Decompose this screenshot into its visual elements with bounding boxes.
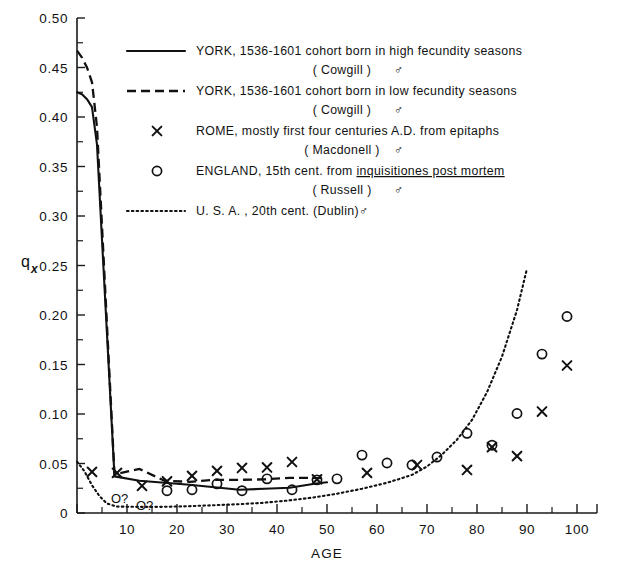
legend-entry[interactable]: YORK, 1536-1601 cohort born in high fecu… [127, 44, 522, 77]
marker-x [188, 471, 197, 480]
marker-x [563, 361, 572, 370]
legend: YORK, 1536-1601 cohort born in high fecu… [127, 44, 522, 218]
series-line-dotted [77, 268, 527, 506]
x-tick-label: 90 [519, 522, 535, 537]
y-tick-label: 0 [60, 506, 68, 521]
x-axis-tick-labels: 102030405060708090100 [119, 522, 589, 537]
marker-circle [357, 450, 366, 459]
marker-x [88, 468, 97, 477]
y-tick-label: 0.25 [39, 259, 68, 274]
chart-container: 00.050.100.150.200.250.300.350.400.450.5… [0, 0, 618, 566]
x-tick-label: 30 [219, 522, 235, 537]
uncertain-markers: O?O? [111, 491, 153, 513]
marker-circle [237, 486, 246, 495]
series-line-solid [77, 92, 327, 489]
legend-label-emphasis: inquisitiones post mortem [356, 164, 504, 178]
marker-circle-uncertain: O? [136, 498, 153, 513]
y-tick-label: 0.05 [39, 457, 68, 472]
legend-swatch-circle-marker [152, 166, 161, 175]
legend-entry[interactable]: YORK, 1536-1601 cohort born in low fecun… [127, 84, 517, 117]
legend-label-source: ( Macdonell ) [304, 143, 380, 157]
marker-x [263, 463, 272, 472]
y-tick-label: 0.15 [39, 358, 68, 373]
legend-label-primary: U. S. A. , 20th cent. (Dublin) [196, 204, 359, 218]
y-axis-title-subscript: x [30, 262, 39, 276]
data-series-lines [77, 51, 527, 507]
marker-circle [407, 460, 416, 469]
legend-label-source: ( Russell ) [312, 183, 371, 197]
y-tick-label: 0.35 [39, 160, 68, 175]
legend-label-primary: ROME, mostly first four centuries A.D. f… [196, 124, 499, 138]
marker-circle [187, 485, 196, 494]
x-tick-label: 20 [169, 522, 185, 537]
y-tick-label: 0.40 [39, 110, 68, 125]
marker-x [288, 458, 297, 467]
x-tick-label: 50 [319, 522, 335, 537]
legend-label-primary: YORK, 1536-1601 cohort born in high fecu… [196, 44, 522, 58]
legend-swatch-x-marker [153, 127, 162, 136]
marker-x [463, 466, 472, 475]
legend-label-primary: YORK, 1536-1601 cohort born in low fecun… [196, 84, 517, 98]
y-axis-tick-labels: 00.050.100.150.200.250.300.350.400.450.5… [39, 11, 68, 521]
y-tick-label: 0.50 [39, 11, 68, 26]
marker-x [363, 469, 372, 478]
marker-circle [512, 409, 521, 418]
x-axis-ticks [77, 504, 597, 513]
legend-male-symbol: ♂ [394, 183, 404, 197]
legend-male-symbol: ♂ [359, 204, 369, 218]
legend-male-symbol: ♂ [394, 143, 404, 157]
x-tick-label: 10 [119, 522, 135, 537]
legend-male-symbol: ♂ [394, 103, 404, 117]
y-tick-label: 0.45 [39, 61, 68, 76]
y-tick-label: 0.30 [39, 209, 68, 224]
marker-circle [162, 486, 171, 495]
legend-entry[interactable]: U. S. A. , 20th cent. (Dublin)♂ [127, 204, 369, 218]
x-tick-label: 60 [369, 522, 385, 537]
marker-circle [332, 474, 341, 483]
y-axis-title: q [21, 253, 30, 270]
y-tick-label: 0.20 [39, 308, 68, 323]
x-tick-label: 40 [269, 522, 285, 537]
marker-circle [537, 350, 546, 359]
x-tick-label: 80 [469, 522, 485, 537]
legend-label-source: ( Cowgill ) [313, 103, 372, 117]
marker-x [238, 464, 247, 473]
legend-label-source: ( Cowgill ) [313, 63, 372, 77]
marker-circle [462, 429, 471, 438]
marker-circle [562, 312, 571, 321]
x-axis-title: AGE [311, 546, 343, 561]
legend-male-symbol: ♂ [394, 63, 404, 77]
mortality-rate-chart: 00.050.100.150.200.250.300.350.400.450.5… [0, 0, 618, 566]
legend-label-primary: ENGLAND, 15th cent. from inquisitiones p… [196, 164, 505, 178]
series-line-dashed [77, 51, 327, 482]
marker-x [538, 407, 547, 416]
legend-entry[interactable]: ENGLAND, 15th cent. from inquisitiones p… [152, 164, 504, 197]
legend-entry[interactable]: ROME, mostly first four centuries A.D. f… [153, 124, 500, 157]
marker-x [138, 481, 147, 490]
x-tick-label: 100 [565, 522, 589, 537]
x-tick-label: 70 [419, 522, 435, 537]
data-series-markers [88, 312, 572, 495]
marker-x [213, 467, 222, 476]
marker-x [513, 452, 522, 461]
marker-circle [382, 458, 391, 467]
marker-circle-uncertain: O? [111, 491, 128, 506]
y-tick-label: 0.10 [39, 407, 68, 422]
